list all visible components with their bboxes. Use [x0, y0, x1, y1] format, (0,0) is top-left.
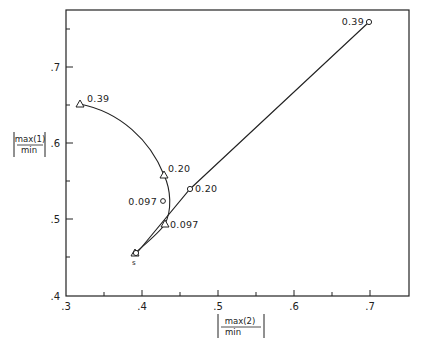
- triangle-marker: [76, 100, 84, 107]
- y-tick-label: .5: [50, 214, 60, 225]
- triangle-marker: [161, 220, 169, 227]
- circle-marker: [187, 186, 192, 191]
- y-tick-label: .6: [50, 138, 60, 149]
- point-label: 0.097: [128, 196, 157, 207]
- x-label-numerator: max(2): [225, 316, 256, 326]
- start-label: s: [132, 259, 136, 267]
- point-label: 0.39: [87, 93, 109, 104]
- circle-marker: [161, 199, 166, 204]
- point-label: 0.39: [342, 16, 364, 27]
- x-tick-label: .4: [137, 301, 147, 312]
- y-axis-label: max(1) min: [14, 132, 45, 157]
- triangle-marker: [160, 171, 168, 178]
- y-label-numerator: max(1): [15, 134, 46, 144]
- x-tick-label: .6: [289, 301, 299, 312]
- y-label-denominator: min: [21, 145, 37, 155]
- x-tick-label: .5: [213, 301, 223, 312]
- point-label: 0.097: [170, 219, 199, 230]
- circle-marker-start: [133, 250, 138, 255]
- x-tick-label: .3: [61, 301, 71, 312]
- x-label-denominator: min: [225, 327, 241, 337]
- circle-marker: [366, 19, 371, 24]
- point-label: 0.20: [168, 163, 190, 174]
- y-axis-ticks: [66, 29, 73, 257]
- point-label: 0.20: [195, 183, 217, 194]
- y-tick-label: .4: [50, 291, 60, 302]
- y-tick-label: .7: [50, 62, 60, 73]
- x-axis-label: max(2) min: [218, 314, 264, 338]
- x-tick-label: .7: [365, 301, 375, 312]
- x-axis-ticks: [104, 290, 370, 296]
- plot-frame: [66, 10, 409, 296]
- chart: .3 .4 .5 .6 .7 .4 .5 .6 .7 max(1) min ma…: [0, 0, 421, 345]
- triangle-series-curve: [80, 104, 170, 253]
